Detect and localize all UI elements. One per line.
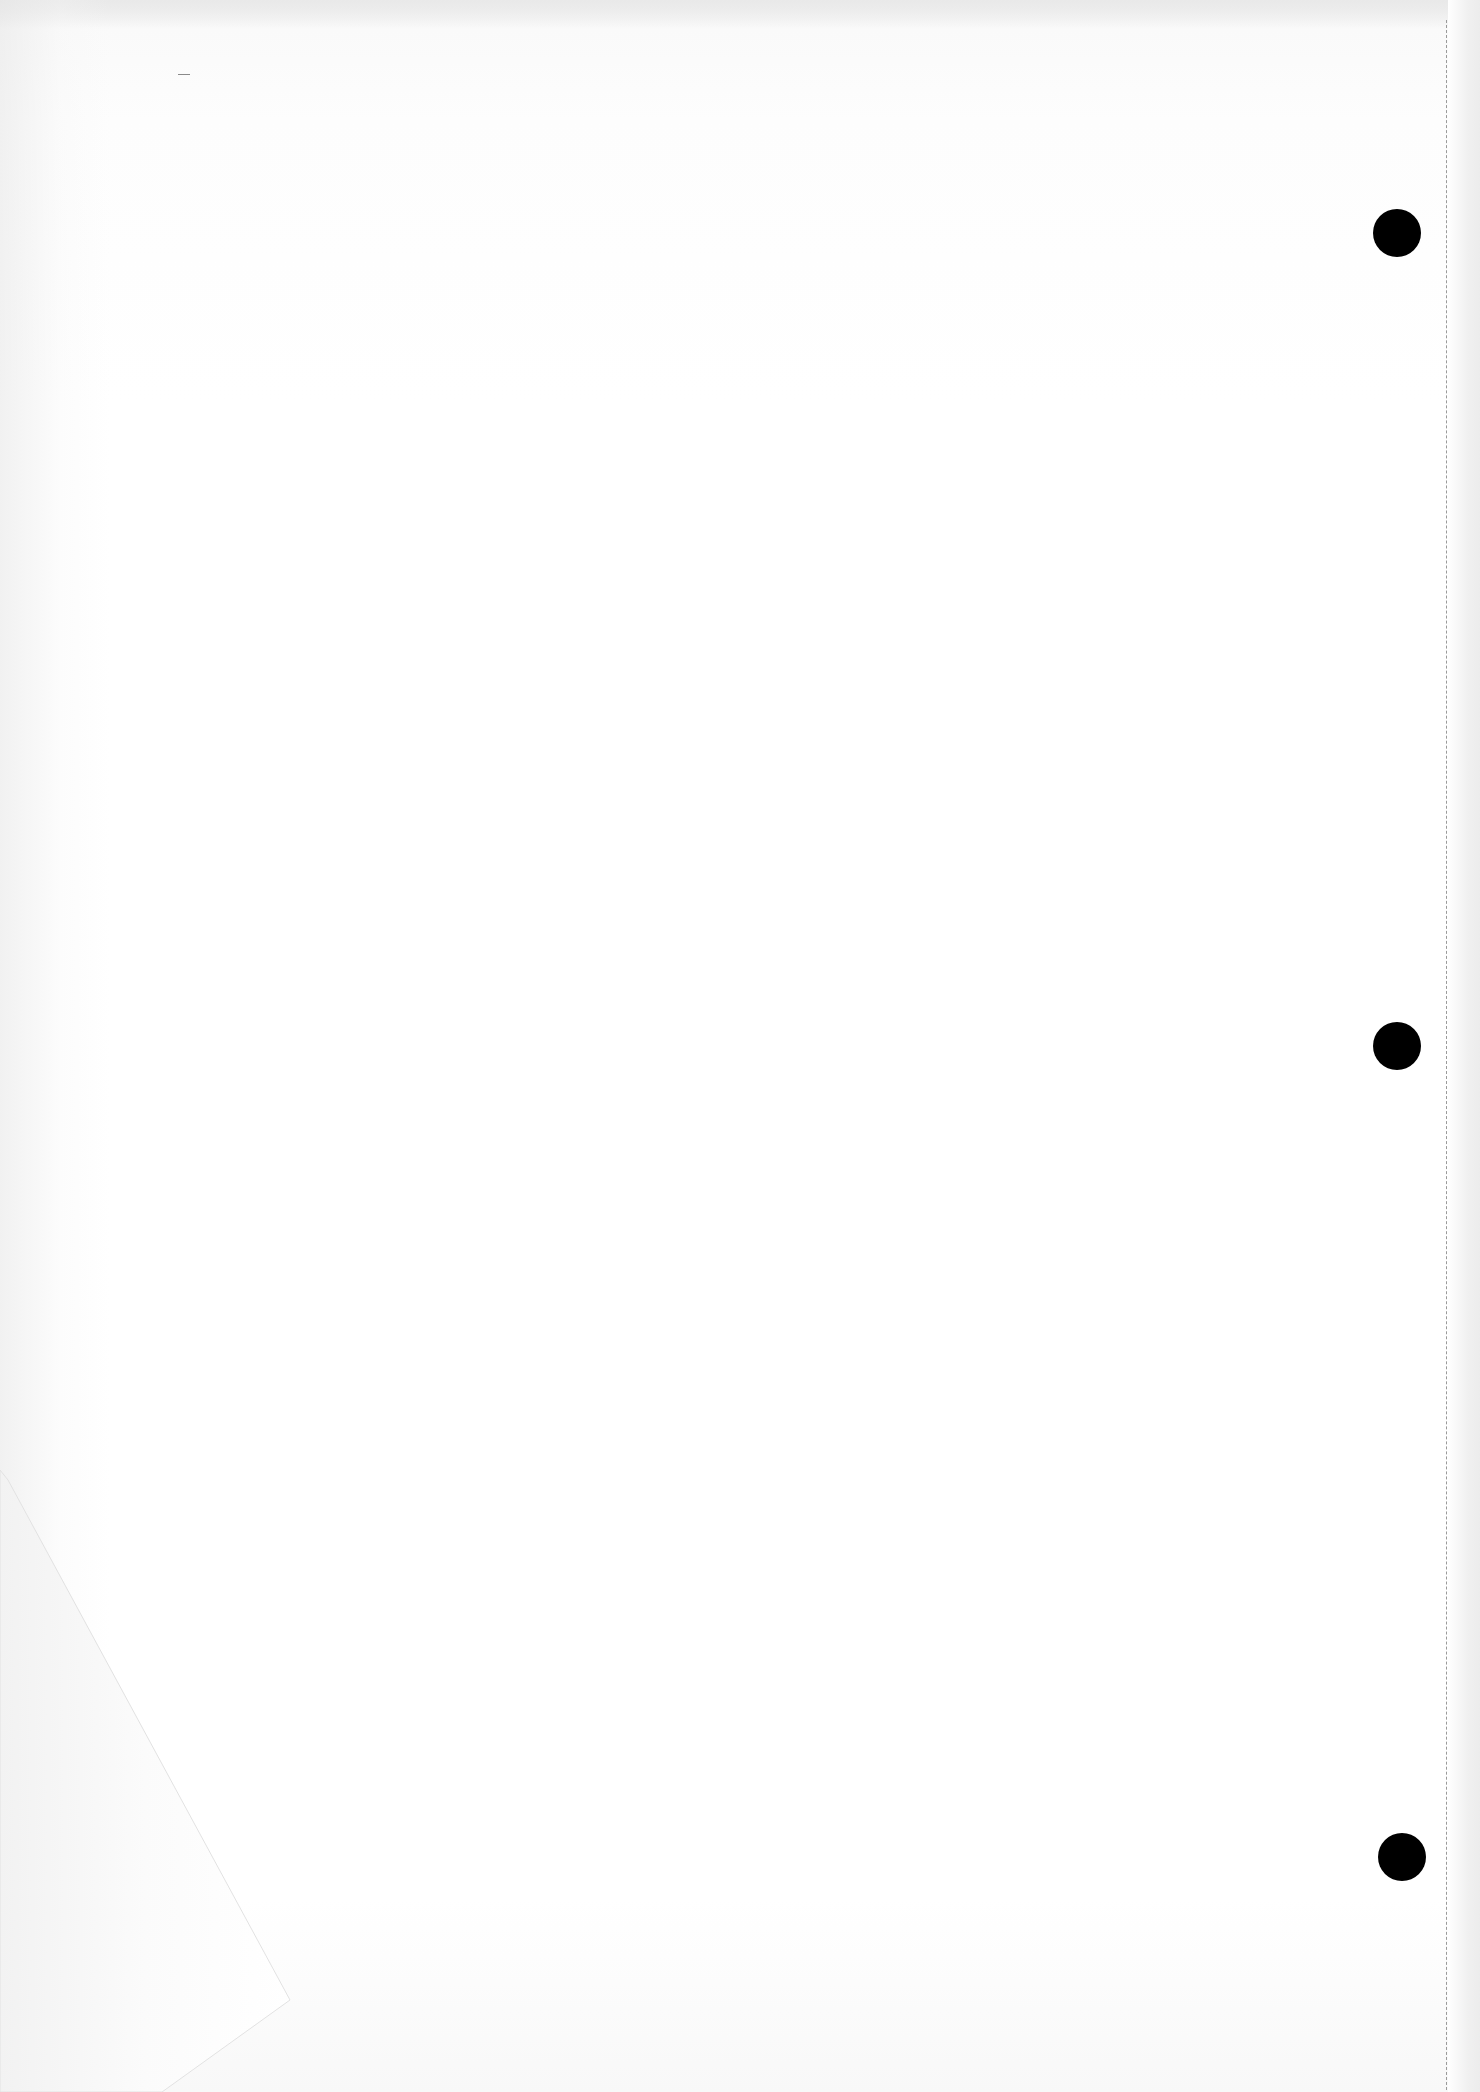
perforation-line: [1446, 20, 1447, 2090]
punch-hole-bottom: [1378, 1833, 1426, 1881]
folded-corner: [0, 0, 1480, 2092]
punch-hole-middle: [1373, 1022, 1421, 1070]
page-left-shadow: [0, 0, 110, 2092]
page-top-edge-shadow: [0, 0, 1480, 28]
scan-speck: [178, 74, 190, 75]
punch-hole-top: [1373, 209, 1421, 257]
page-right-margin-strip: [1448, 0, 1480, 2092]
scanned-page: [0, 0, 1480, 2092]
